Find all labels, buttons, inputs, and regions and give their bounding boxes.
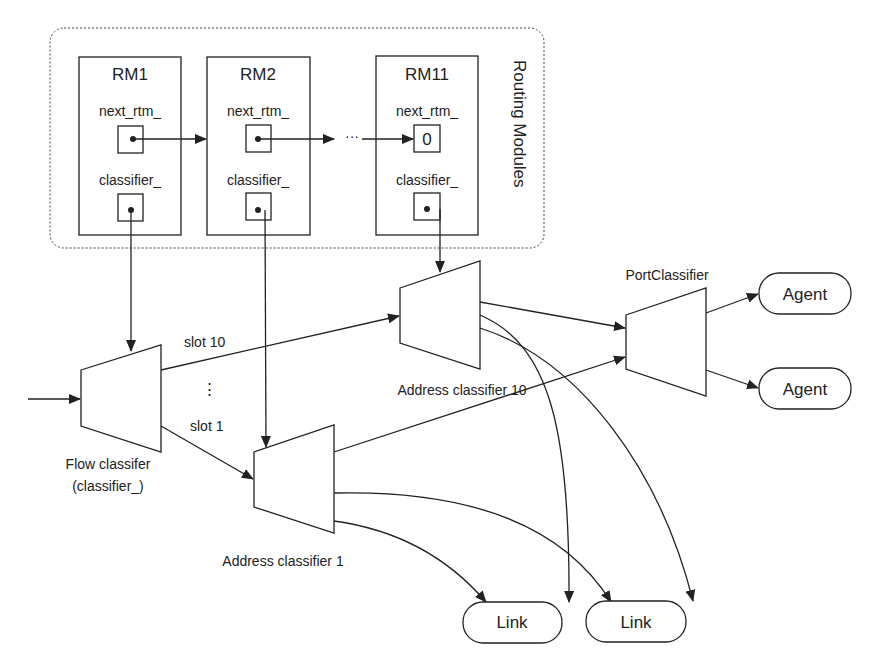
addr1-to-link1-arrow xyxy=(334,521,486,602)
routing-modules-label: Routing Modules xyxy=(510,60,529,188)
rm-field-next: next_rtm_ xyxy=(227,103,289,119)
slot-ellipsis: ⋮ xyxy=(201,380,218,399)
address-classifier-1-label: Address classifier 1 xyxy=(222,553,344,569)
port-classifier xyxy=(626,288,706,396)
address-classifier-10 xyxy=(400,261,480,369)
agent-node: Agent xyxy=(759,273,851,314)
link-node: Link xyxy=(586,601,686,642)
addr10-to-link1-arrow xyxy=(480,315,569,602)
rm-title: RM2 xyxy=(240,65,276,84)
rm-field-next: next_rtm_ xyxy=(99,103,161,119)
rm-field-classifier: classifier_ xyxy=(99,172,161,188)
routing-module-rm2: RM2 next_rtm_ classifier_ xyxy=(207,57,310,235)
link-node: Link xyxy=(463,602,562,643)
diagram-canvas: Routing Modules RM1 next_rtm_ classifier… xyxy=(0,0,876,667)
rm-field-next: next_rtm_ xyxy=(396,103,458,119)
classifier-pointer-arrow xyxy=(265,210,266,447)
link-label: Link xyxy=(620,613,652,632)
classifier-pointer-box xyxy=(246,193,271,220)
rm-field-classifier: classifier_ xyxy=(396,172,458,188)
agent-node: Agent xyxy=(759,368,851,409)
routing-module-rm1: RM1 next_rtm_ classifier_ xyxy=(79,57,181,235)
rm-field-classifier: classifier_ xyxy=(227,172,289,188)
addr10-to-port-arrow xyxy=(480,302,625,328)
rm-title: RM1 xyxy=(112,65,148,84)
slot-10-label: slot 10 xyxy=(184,334,225,350)
null-pointer-value: 0 xyxy=(422,130,431,149)
flow-classifier xyxy=(81,345,161,452)
agent-label: Agent xyxy=(783,285,828,304)
agent-label: Agent xyxy=(783,380,828,399)
flow-classifier-label: Flow classifer xyxy=(66,456,151,472)
pointer-dot-icon xyxy=(424,206,430,212)
port-to-agent-arrow xyxy=(706,370,758,388)
flow-classifier-sublabel: (classifier_) xyxy=(72,478,144,494)
slot-1-label: slot 1 xyxy=(190,418,224,434)
chain-ellipsis: ··· xyxy=(345,128,359,144)
port-classifier-label: PortClassifier xyxy=(625,267,709,283)
rm-title: RM11 xyxy=(405,65,449,84)
port-to-agent-arrow xyxy=(706,294,758,313)
link-label: Link xyxy=(496,613,528,632)
pointer-dot-icon xyxy=(255,207,261,213)
routing-module-rm11: RM11 next_rtm_ 0 classifier_ xyxy=(376,56,478,235)
addr1-to-port-arrow xyxy=(334,357,625,452)
